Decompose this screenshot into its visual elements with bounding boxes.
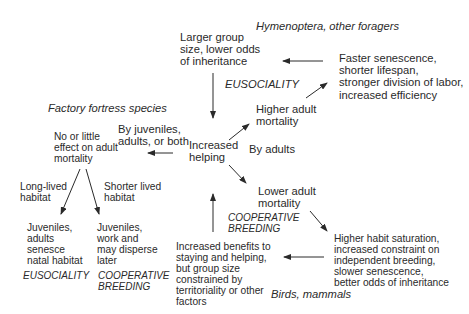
long-lived-habitat-label: Long-lived habitat — [20, 181, 67, 203]
shorter-lived-habitat-label: Shorter lived habitat — [104, 181, 161, 203]
faster-senescence-node: Faster senescence, shorter lifespan, str… — [339, 52, 463, 101]
arrow-helping-to-lower-mortality — [229, 165, 246, 183]
by-adults-label: By adults — [249, 143, 295, 155]
factory-fortress-label: Factory fortress species — [48, 102, 167, 114]
juveniles-adults-senesce-node: Juveniles, adults senesce natal habitat — [27, 222, 83, 266]
larger-group-node: Larger group size, lower odds of inherit… — [180, 31, 260, 68]
by-juveniles-label: By juveniles, adults, or both — [118, 123, 189, 147]
birds-mammals-label: Birds, mammals — [271, 288, 351, 300]
increased-helping-node: Increased helping — [189, 139, 238, 163]
cooperative-breeding-bottom-label: COOPERATIVE BREEDING — [98, 270, 170, 292]
lower-adult-mortality-node: Lower adult mortality — [258, 185, 316, 209]
juveniles-work-disperse-node: Juveniles, work and may disperse later — [97, 222, 158, 266]
arrow-helping-to-higher-mortality — [229, 124, 249, 140]
arrow-no-effect-to-juveniles-work — [86, 169, 99, 214]
cooperative-breeding-center-label: COOPERATIVE BREEDING — [228, 212, 300, 234]
eusociality-bottom-label: EUSOCIALITY — [23, 270, 89, 281]
eusociality-top-label: EUSOCIALITY — [225, 78, 299, 90]
arrow-lower-mortality-to-saturation — [310, 211, 327, 231]
no-little-effect-node: No or little effect on adult mortality — [54, 131, 118, 164]
hymenoptera-label: Hymenoptera, other foragers — [256, 20, 399, 32]
higher-adult-mortality-node: Higher adult mortality — [256, 103, 316, 127]
increased-benefits-node: Increased benefits to staying and helpin… — [176, 241, 271, 307]
higher-habit-saturation-node: Higher habit saturation, increased const… — [334, 233, 449, 288]
arrow-higher-mortality-to-faster — [306, 83, 327, 98]
